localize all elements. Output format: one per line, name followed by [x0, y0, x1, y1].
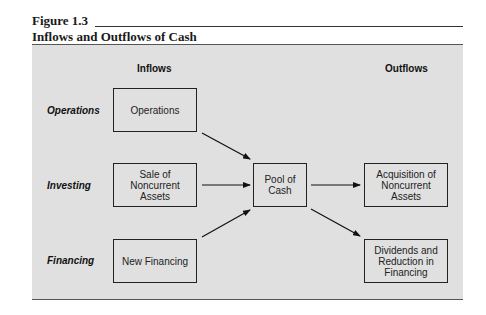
arrows-layer — [0, 0, 486, 315]
arrow-operations-to-pool — [202, 133, 250, 159]
arrow-pool-to-dividends — [311, 209, 360, 236]
arrow-new-financing-to-pool — [202, 210, 250, 237]
